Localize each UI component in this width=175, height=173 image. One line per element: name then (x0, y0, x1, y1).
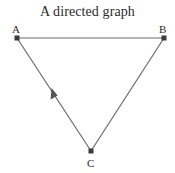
node-a[interactable] (15, 36, 20, 41)
node-b[interactable] (162, 36, 167, 41)
edge-b-c (91, 38, 164, 151)
node-label-c: C (87, 157, 94, 169)
node-label-a: A (12, 23, 20, 35)
node-c[interactable] (89, 149, 94, 154)
graph-canvas: A B C (0, 0, 175, 173)
node-label-b: B (159, 23, 166, 35)
